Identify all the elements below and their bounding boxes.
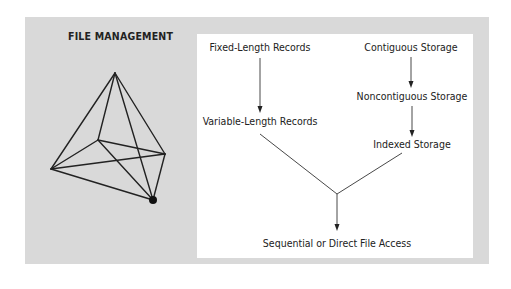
node-indexed-storage: Indexed Storage [373,138,450,150]
node-fixed-length-records: Fixed-Length Records [210,41,311,53]
node-sequential-or-direct-file-access: Sequential or Direct File Access [263,237,411,249]
node-variable-length-records: Variable-Length Records [203,115,318,127]
node-noncontiguous-storage: Noncontiguous Storage [357,90,468,102]
node-contiguous-storage: Contiguous Storage [364,41,457,53]
